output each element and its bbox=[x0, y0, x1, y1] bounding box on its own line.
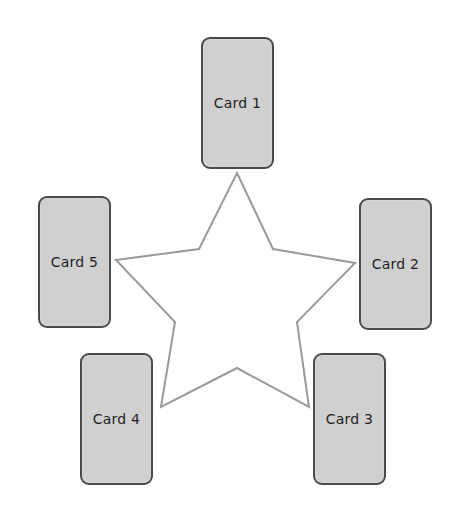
card-5-label: Card 5 bbox=[51, 254, 98, 270]
card-4-label: Card 4 bbox=[93, 411, 140, 427]
card-5: Card 5 bbox=[38, 196, 111, 328]
card-2: Card 2 bbox=[359, 198, 432, 330]
card-1-label: Card 1 bbox=[214, 95, 261, 111]
card-4: Card 4 bbox=[80, 353, 153, 485]
star-card-spread-diagram: Card 1 Card 2 Card 3 Card 4 Card 5 bbox=[0, 0, 465, 526]
card-2-label: Card 2 bbox=[372, 256, 419, 272]
card-1: Card 1 bbox=[201, 37, 274, 169]
card-3-label: Card 3 bbox=[326, 411, 373, 427]
card-3: Card 3 bbox=[313, 353, 386, 485]
